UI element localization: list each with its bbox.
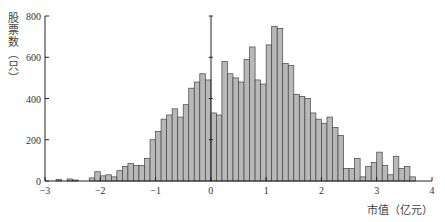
histogram-bar: [316, 119, 322, 181]
histogram-chart: 0200400600800 −3−2−101234 股票数︵只︶ 市值（亿元）: [0, 0, 445, 222]
histogram-bar: [338, 136, 344, 181]
histogram-bar: [211, 113, 217, 181]
histogram-bar: [222, 61, 228, 181]
histogram-bar: [410, 177, 416, 181]
y-tick-label: 200: [26, 135, 41, 146]
histogram-bar: [100, 176, 106, 181]
histogram-bar: [150, 140, 156, 181]
histogram-bars: [56, 26, 415, 181]
y-axis-ticks: 0200400600800: [26, 11, 49, 187]
histogram-bar: [399, 169, 405, 181]
histogram-bar: [178, 117, 184, 181]
x-axis-label: 市值（亿元）: [367, 203, 433, 217]
histogram-bar: [227, 74, 233, 181]
histogram-bar: [233, 78, 239, 181]
histogram-bar: [366, 167, 372, 181]
histogram-bar: [321, 123, 327, 181]
histogram-bar: [327, 117, 333, 181]
x-tick-label: 1: [264, 185, 269, 196]
histogram-bar: [382, 166, 388, 181]
y-tick-label: 600: [26, 52, 41, 63]
y-axis-label: 股票数︵只︶: [8, 12, 19, 85]
histogram-bar: [244, 59, 250, 181]
y-tick-label: 800: [26, 11, 41, 22]
histogram-bar: [404, 167, 410, 181]
histogram-bar: [261, 84, 267, 181]
histogram-bar: [250, 47, 256, 181]
histogram-bar: [349, 169, 355, 181]
histogram-bar: [283, 63, 289, 181]
histogram-bar: [239, 82, 245, 181]
histogram-bar: [128, 163, 134, 181]
histogram-bar: [255, 80, 261, 181]
histogram-bar: [294, 94, 300, 181]
histogram-bar: [122, 167, 128, 181]
x-tick-label: 4: [430, 185, 435, 196]
x-tick-label: −3: [40, 185, 51, 196]
histogram-bar: [355, 158, 361, 181]
histogram-bar: [95, 172, 101, 181]
histogram-bar: [145, 158, 151, 181]
x-tick-label: −1: [150, 185, 161, 196]
histogram-bar: [205, 80, 211, 181]
histogram-bar: [216, 115, 222, 181]
histogram-bar: [139, 166, 145, 181]
histogram-bar: [305, 99, 311, 182]
histogram-bar: [299, 96, 305, 181]
histogram-bar: [393, 156, 399, 181]
histogram-bar: [189, 88, 195, 181]
histogram-bar: [200, 74, 206, 181]
histogram-bar: [266, 45, 272, 181]
histogram-bar: [161, 119, 167, 181]
histogram-bar: [310, 113, 316, 181]
x-tick-label: 0: [208, 185, 213, 196]
y-axis-label-char: ︶: [8, 72, 19, 85]
histogram-bar: [117, 171, 123, 181]
histogram-bar: [371, 162, 377, 181]
histogram-bar: [288, 66, 294, 182]
histogram-bar: [172, 109, 178, 181]
x-tick-label: 3: [374, 185, 379, 196]
histogram-bar: [277, 28, 283, 181]
x-tick-label: −2: [95, 185, 106, 196]
histogram-bar: [167, 115, 173, 181]
y-tick-label: 400: [26, 94, 41, 105]
histogram-bar: [106, 175, 112, 181]
histogram-bar: [344, 169, 350, 181]
x-tick-label: 2: [319, 185, 324, 196]
histogram-bar: [156, 132, 162, 182]
histogram-bar: [183, 105, 189, 181]
histogram-bar: [377, 152, 383, 181]
histogram-bar: [332, 127, 338, 181]
histogram-bar: [111, 177, 117, 181]
histogram-bar: [194, 82, 200, 181]
histogram-bar: [360, 177, 366, 181]
histogram-bar: [133, 166, 139, 181]
histogram-bar: [388, 175, 394, 181]
histogram-bar: [272, 26, 278, 181]
